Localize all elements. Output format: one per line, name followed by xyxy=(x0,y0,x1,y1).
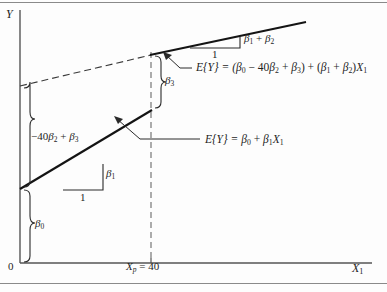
offset-sub2: 3 xyxy=(75,135,79,144)
offset-plus: + xyxy=(57,130,69,142)
upper-regression-line xyxy=(150,22,306,55)
eq-upper-plus2: + xyxy=(330,61,342,73)
x-tick-value: = 40 xyxy=(136,260,159,272)
regression-figure: Y X1 0 Xp = 40 β0 β3 −40β2 + β3 β1 1 β1 … xyxy=(0,0,387,292)
slope-triangle-upper xyxy=(190,37,240,48)
slope-triangle-lower xyxy=(63,164,103,190)
lower-regression-line xyxy=(20,110,152,189)
run-label-upper: 1 xyxy=(212,49,218,60)
x-axis-label: X1 xyxy=(352,262,363,276)
eq-upper-close1: ) + ( xyxy=(301,61,321,73)
brace-beta0 xyxy=(24,190,35,262)
eq-lower-x-sub: 1 xyxy=(280,138,284,147)
x-axis-label-sub: 1 xyxy=(359,267,363,276)
x-tick-label-breakpoint: Xp = 40 xyxy=(126,261,159,274)
brace-label-beta3: β3 xyxy=(165,75,174,88)
beta0-sub: 0 xyxy=(40,222,44,231)
eq-upper-plus1: + xyxy=(279,61,291,73)
eq-upper-minus40: − 40 xyxy=(246,61,270,73)
eq-lower-plus: + xyxy=(251,133,263,145)
eq-lower-lhs: E{Y} = xyxy=(205,133,241,145)
slope-label-beta1-plus-beta2: β1 + β2 xyxy=(244,33,274,46)
eq-upper-lhs: E{Y} = ( xyxy=(196,61,236,73)
brace-label-offset: −40β2 + β3 xyxy=(31,131,78,144)
figure-canvas xyxy=(0,0,387,292)
slope-label-beta1: β1 xyxy=(106,168,115,181)
offset-prefix: −40 xyxy=(31,130,48,142)
eq-lower-x-base: X xyxy=(273,133,280,145)
origin-label: 0 xyxy=(8,261,14,272)
slope-b2-sub: 2 xyxy=(270,37,274,46)
brace-label-beta0: β0 xyxy=(35,218,44,231)
y-axis-label: Y xyxy=(6,8,13,20)
eq-upper-x-sub: 1 xyxy=(363,66,367,75)
equation-lower-segment: E{Y} = β0 + β1X1 xyxy=(205,134,284,147)
beta3-sub: 3 xyxy=(170,79,174,88)
equation-upper-segment: E{Y} = (β0 − 40β2 + β3) + (β1 + β2)X1 xyxy=(196,62,367,75)
dashed-extrapolation-line xyxy=(20,55,151,86)
slope-beta1-sub: 1 xyxy=(111,172,115,181)
slope-plus: + xyxy=(253,32,265,44)
run-label-lower: 1 xyxy=(80,192,86,203)
x-tick-base: X xyxy=(126,260,133,272)
